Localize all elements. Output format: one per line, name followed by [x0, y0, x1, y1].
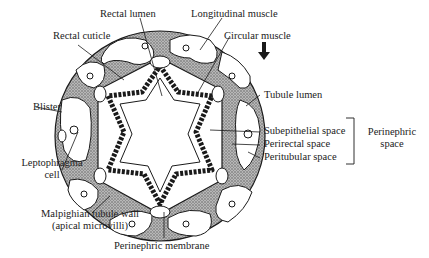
arrow-down-icon: [258, 42, 270, 60]
label-tubule-lumen: Tubule lumen: [264, 89, 322, 101]
label-perinephric-membrane: Perinephric membrane: [114, 240, 209, 252]
label-peritubular-space: Peritubular space: [264, 151, 337, 163]
label-leptophragma-line1: Leptophragma: [12, 157, 92, 169]
label-rectal-cuticle: Rectal cuticle: [53, 30, 110, 42]
label-rectal-lumen: Rectal lumen: [100, 8, 156, 20]
label-blister: Blister: [33, 101, 61, 113]
label-perinephric-space-line1: Perinephric: [360, 126, 424, 138]
label-leptophragma-cell: Leptophragma cell: [12, 157, 92, 181]
label-perirectal-space: Perirectal space: [264, 138, 330, 150]
label-perinephric-space: Perinephric space: [360, 126, 424, 150]
label-perinephric-space-line2: space: [360, 138, 424, 150]
label-leptophragma-line2: cell: [12, 169, 92, 181]
label-malpighian-line2: (apical microvilli): [25, 220, 155, 232]
label-malpighian-tubule-wall: Malpighian tubule wall (apical microvill…: [25, 208, 155, 232]
label-subepithelial-space: Subepithelial space: [264, 125, 345, 137]
label-circular-muscle: Circular muscle: [224, 30, 291, 42]
label-malpighian-line1: Malpighian tubule wall: [25, 208, 155, 220]
label-longitudinal-muscle: Longitudinal muscle: [191, 8, 278, 20]
perinephric-bracket: [346, 118, 354, 164]
